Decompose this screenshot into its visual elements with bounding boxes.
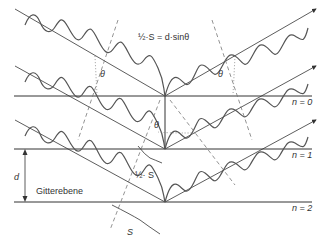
n0-label: n = 0: [292, 98, 312, 107]
incident-ray-1: [15, 9, 165, 96]
n2-label: n = 2: [292, 204, 312, 213]
s-label: S: [127, 228, 133, 237]
d-label: d: [14, 173, 19, 182]
theta-label-center: θ: [154, 121, 159, 130]
incident-ray-2: [15, 66, 165, 149]
theta-label-right: θ: [218, 70, 223, 79]
diffracted-ray-2: [165, 66, 316, 149]
theta-label-left: θ: [100, 70, 105, 79]
bragg-equation: ½·S = d·sinθ: [138, 33, 189, 42]
grating-plane-label: Gitterebene: [36, 187, 83, 196]
half-s-label: ½· S: [135, 171, 154, 180]
diffracted-ray-3: [165, 120, 316, 202]
s-brace: [112, 205, 160, 234]
d-arrow-top-icon: [23, 149, 28, 155]
n1-label: n = 1: [292, 151, 312, 160]
diffracted-ray-1: [165, 9, 316, 96]
d-arrow-bottom-icon: [23, 196, 28, 202]
